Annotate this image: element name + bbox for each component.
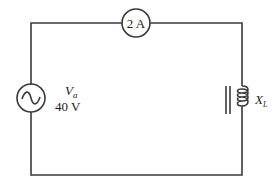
ammeter-reading: 2 A [127, 16, 146, 31]
source-symbol: Va [65, 83, 78, 100]
wire-top-left [31, 23, 122, 85]
circuit-diagram: 2 A Va 40 V XL [0, 0, 278, 185]
wire-bottom [31, 112, 242, 175]
source-value: 40 V [55, 99, 81, 114]
inductor-coil-icon [238, 86, 249, 114]
wire-top-right [150, 23, 242, 86]
sine-wave-icon [22, 92, 40, 104]
inductor-symbol: XL [254, 92, 268, 109]
